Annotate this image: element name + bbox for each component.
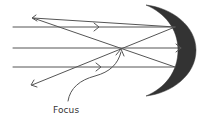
reflected-ray-lower (32, 27, 175, 85)
diagram-canvas (0, 0, 200, 127)
focus-label: Focus (53, 105, 79, 115)
concave-mirror (146, 5, 196, 96)
mirror-diagram: Focus (0, 0, 200, 127)
